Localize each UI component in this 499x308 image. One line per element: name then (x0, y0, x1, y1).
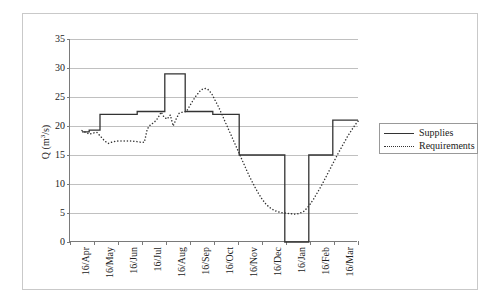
legend-line-solid-icon (384, 129, 414, 137)
y-tick-label: 30 (55, 63, 65, 73)
x-tick-label: 16/Oct (225, 247, 235, 274)
x-tick-label: 16/May (105, 247, 115, 278)
y-axis-title-tail: /s) (40, 125, 51, 135)
series-line-supplies (82, 74, 358, 242)
series-line-requirements (82, 88, 359, 214)
x-tick-label: 16/Nov (249, 247, 259, 277)
x-tick-label: 16/Mar (345, 247, 355, 276)
x-tick-label: 16/Feb (321, 247, 331, 275)
y-tick-label: 5 (60, 208, 65, 218)
x-tick-label: 16/Dec (273, 247, 283, 276)
y-tick-label: 20 (55, 121, 65, 131)
y-tick-label: 35 (55, 34, 65, 44)
plot-area: 05101520253035 16/Apr16/May16/Jun16/Jul1… (69, 39, 357, 242)
series-group (70, 39, 358, 242)
y-tick-label: 15 (55, 150, 65, 160)
legend-label-requirements: Requirements (419, 141, 475, 151)
y-tick-label: 0 (60, 237, 65, 247)
y-tick-label: 25 (55, 92, 65, 102)
chart-legend: Supplies Requirements (379, 123, 478, 154)
x-tick-label: 16/Jun (129, 247, 139, 274)
x-tick-mark (358, 241, 359, 245)
x-tick-label: 16/Jul (153, 247, 163, 271)
legend-label-supplies: Supplies (419, 128, 453, 138)
x-tick-label: 16/Jan (297, 247, 307, 273)
x-tick-label: 16/Apr (81, 247, 91, 275)
legend-line-dotted-icon (384, 142, 414, 150)
y-axis-title-base: Q (m (40, 138, 51, 159)
y-axis-title-exponent: 3 (39, 135, 47, 139)
y-axis-title: Q (m3/s) (39, 125, 51, 159)
x-tick-label: 16/Sep (201, 247, 211, 275)
x-tick-label: 16/Aug (177, 247, 187, 277)
legend-item-requirements: Requirements (384, 140, 473, 152)
legend-item-supplies: Supplies (384, 127, 473, 139)
chart-figure: Q (m3/s) 05101520253035 16/Apr16/May16/J… (22, 13, 478, 290)
y-tick-label: 10 (55, 179, 65, 189)
